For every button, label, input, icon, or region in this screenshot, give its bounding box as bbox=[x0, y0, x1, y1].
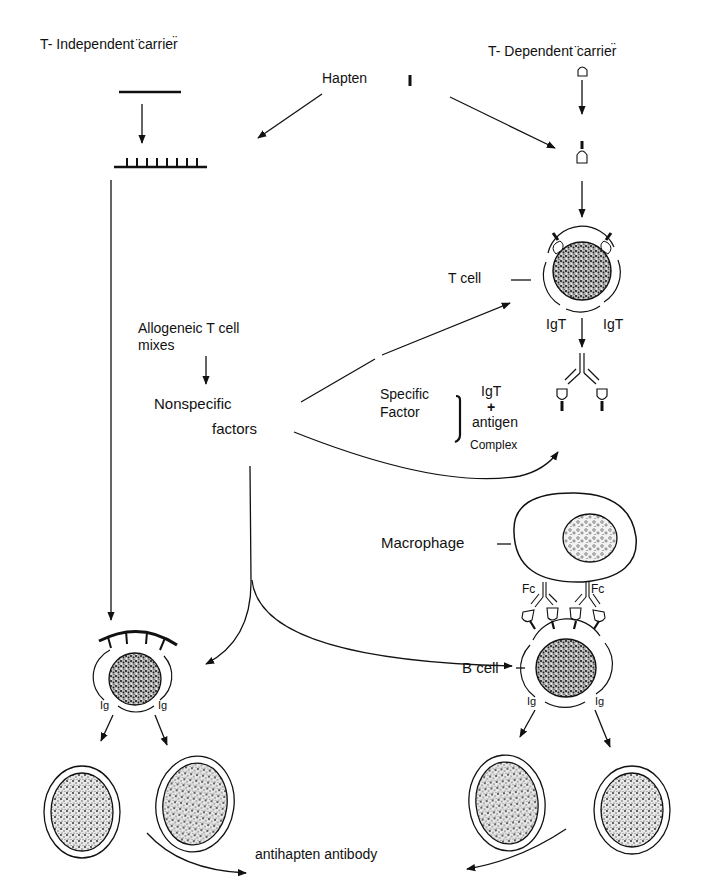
b-cell-ig-left-label: Ig bbox=[527, 695, 536, 708]
hapten-carrier-conjugate-icon bbox=[577, 141, 587, 163]
daughter-cell-4-icon bbox=[594, 766, 670, 854]
fc-right-label: Fc bbox=[591, 583, 604, 597]
specific-factor-label-line1: Specific bbox=[380, 386, 429, 402]
nonspecific-label-line1: Nonspecific bbox=[154, 395, 232, 412]
fc-left-label: Fc bbox=[522, 583, 535, 597]
ti-b-cell-ig-right-label: Ig bbox=[158, 699, 167, 712]
nonspecific-label-line2: factors bbox=[212, 420, 257, 437]
t-cell-icon bbox=[543, 226, 620, 312]
daughter-cell-1-icon bbox=[44, 766, 120, 858]
hapten-carrier-comb-icon bbox=[114, 158, 207, 167]
igt-left-label: IgT bbox=[546, 316, 566, 332]
complex-antigen-label: antigen bbox=[472, 414, 518, 430]
complex-plus-label: + bbox=[487, 399, 495, 415]
ti-ig-right-arrow bbox=[155, 715, 167, 745]
allogeneic-label-line2: mixes bbox=[138, 337, 175, 353]
b-ig-left-arrow bbox=[520, 710, 535, 737]
hapten-to-ti-arrow bbox=[258, 94, 322, 138]
td-carrier-cup-icon bbox=[578, 67, 587, 76]
b-cell-ig-right-label: Ig bbox=[595, 695, 604, 708]
macrophage-icon bbox=[514, 493, 636, 582]
diagram-canvas bbox=[0, 0, 708, 894]
igt-right-label: IgT bbox=[603, 316, 623, 332]
b-cell-label: B cell bbox=[462, 659, 499, 676]
daughter-cell-3-icon bbox=[464, 751, 550, 854]
complex-igt-label: IgT bbox=[481, 383, 501, 399]
t-cell-label: T cell bbox=[448, 270, 481, 286]
nonspecific-to-b-arrow bbox=[252, 580, 512, 666]
specific-factor-label-line2: Factor bbox=[380, 404, 420, 420]
nonspecific-to-tcell-arrow bbox=[382, 303, 510, 355]
macrophage-label: Macrophage bbox=[381, 534, 464, 551]
t-independent-carrier-label: T- Independent ̈carrier̈ bbox=[40, 36, 178, 52]
nonspecific-to-tcell-line bbox=[301, 359, 375, 402]
hapten-label: Hapten bbox=[322, 70, 367, 86]
complex-label: Complex bbox=[470, 439, 517, 453]
nonspecific-to-complex-arrow bbox=[294, 432, 558, 479]
ti-ig-left-arrow bbox=[101, 715, 113, 741]
allogeneic-label-line1: Allogeneic T cell bbox=[138, 320, 239, 336]
t-dependent-carrier-label: T- Dependent ̈carrier̈ bbox=[488, 43, 616, 59]
specific-factor-bracket bbox=[455, 396, 460, 442]
daughter-cell-2-icon bbox=[150, 751, 241, 857]
ti-b-cell-ig-left-label: Ig bbox=[100, 699, 109, 712]
nonspecific-to-ti-b-arrow bbox=[206, 466, 251, 664]
b-ig-right-arrow bbox=[595, 710, 610, 747]
igt-antibody-icon bbox=[557, 353, 607, 411]
hapten-to-td-arrow bbox=[450, 97, 555, 148]
antihapten-antibody-label: antihapten antibody bbox=[255, 846, 377, 862]
